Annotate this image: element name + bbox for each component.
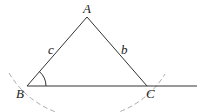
dashed-arc xyxy=(9,73,165,112)
vertex-label-b: B xyxy=(16,86,24,101)
vertex-label-c: C xyxy=(146,86,155,101)
side-label-c: c xyxy=(48,42,54,57)
angle-b-marker xyxy=(40,72,47,86)
side-c xyxy=(27,17,87,86)
vertex-label-a: A xyxy=(82,1,91,16)
side-b xyxy=(87,17,147,86)
triangle-diagram: A B C c b xyxy=(0,0,201,112)
side-label-b: b xyxy=(121,42,128,57)
